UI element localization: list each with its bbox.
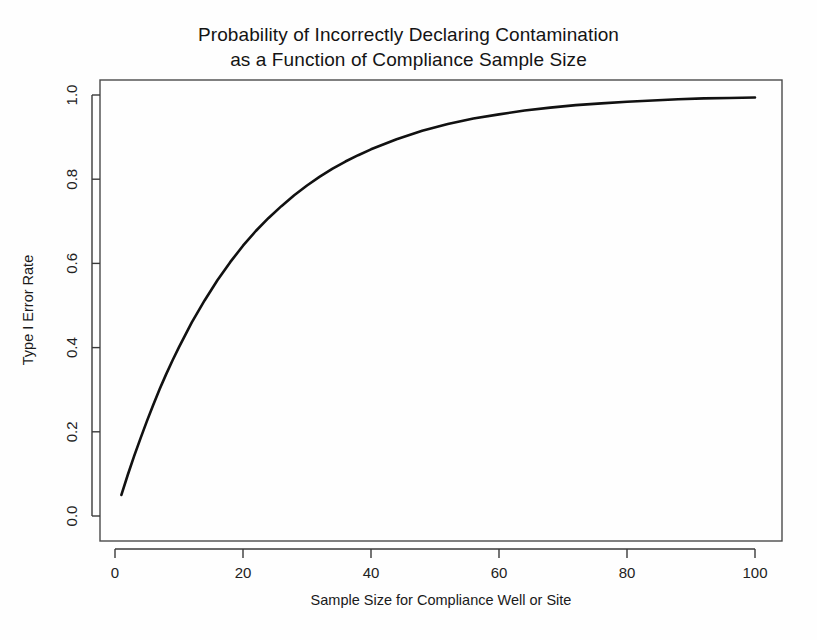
- x-tick-group: 020406080100: [111, 549, 768, 581]
- series-line-type-i-error-rate: [121, 98, 755, 495]
- y-tick-label: 0.6: [63, 253, 80, 274]
- x-tick-label: 60: [491, 564, 508, 581]
- y-tick-label: 0.0: [63, 506, 80, 527]
- chart-figure: Probability of Incorrectly Declaring Con…: [0, 0, 817, 640]
- x-tick-label: 20: [235, 564, 252, 581]
- y-tick-label: 0.2: [63, 421, 80, 442]
- x-tick-label: 100: [742, 564, 767, 581]
- x-tick-label: 40: [363, 564, 380, 581]
- y-axis-title: Type I Error Rate: [20, 255, 36, 365]
- x-tick-label: 0: [111, 564, 119, 581]
- y-tick-label: 1.0: [63, 85, 80, 106]
- plot-frame: [100, 80, 782, 541]
- x-tick-label: 80: [619, 564, 636, 581]
- y-tick-label: 0.8: [63, 169, 80, 190]
- y-tick-group: 0.00.20.40.60.81.0: [63, 85, 100, 527]
- data-curve-group: [121, 98, 755, 495]
- plot-area: 0.00.20.40.60.81.0 020406080100 Sample S…: [0, 0, 817, 640]
- x-axis-title: Sample Size for Compliance Well or Site: [311, 592, 572, 608]
- y-tick-label: 0.4: [63, 337, 80, 358]
